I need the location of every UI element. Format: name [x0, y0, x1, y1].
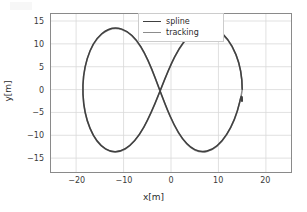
xtick-label-10: 10	[203, 176, 233, 185]
ytick-label-minus10: −10	[24, 131, 44, 140]
legend-swatch-tracking	[143, 32, 161, 33]
y-axis-label: y[m]	[3, 55, 13, 127]
legend-label-tracking: tracking	[166, 28, 199, 38]
xtick-label-20: 20	[250, 176, 280, 185]
xtick-label-minus10: −10	[109, 176, 139, 185]
legend-entry-spline[interactable]: spline	[143, 16, 219, 27]
ytick-label-0: 0	[24, 85, 44, 94]
ytick-label-5: 5	[24, 62, 44, 71]
chart-legend[interactable]: spline tracking	[138, 13, 224, 42]
ytick-label-minus15: −15	[24, 154, 44, 163]
legend-swatch-spline	[143, 21, 161, 22]
legend-entry-tracking[interactable]: tracking	[143, 27, 219, 38]
ytick-label-10: 10	[24, 39, 44, 48]
y-axis-label-wrapper: y[m]	[0, 0, 16, 186]
ytick-label-15: 15	[24, 17, 44, 26]
ytick-label-minus5: −5	[24, 108, 44, 117]
matplotlib-figure: 15 10 5 0 −5 −10 −15 −20 −10 0 10 20 x[m…	[0, 0, 307, 212]
xtick-label-minus20: −20	[62, 176, 92, 185]
legend-label-spline: spline	[166, 17, 190, 27]
x-axis-label: x[m]	[0, 192, 307, 202]
xtick-label-0: 0	[156, 176, 186, 185]
